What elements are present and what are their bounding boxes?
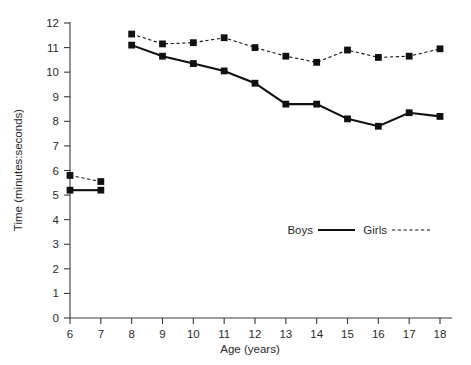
data-point-girls (313, 59, 320, 66)
data-point-boys (282, 101, 289, 108)
x-tick-label: 10 (187, 328, 200, 340)
data-point-boys (313, 101, 320, 108)
data-point-girls (252, 44, 259, 51)
x-axis-title: Age (years) (220, 343, 280, 355)
x-tick-label: 7 (98, 328, 104, 340)
x-tick-label: 6 (67, 328, 73, 340)
data-point-girls (190, 39, 197, 46)
data-point-girls (128, 31, 135, 38)
chart-legend: BoysGirls (287, 224, 430, 236)
data-point-girls (159, 40, 166, 47)
data-point-boys (437, 113, 444, 120)
y-axis-title: Time (minutes:seconds) (12, 109, 24, 231)
x-tick-label: 11 (218, 328, 230, 340)
x-tick-label: 16 (372, 328, 385, 340)
data-point-boys (375, 123, 382, 130)
y-axis: 0123456789101112 (46, 17, 70, 324)
data-point-girls (375, 54, 382, 61)
data-series-group (67, 31, 444, 194)
y-tick-label: 4 (53, 214, 60, 226)
x-tick-label: 15 (341, 328, 354, 340)
data-point-boys (67, 187, 74, 194)
data-point-boys (128, 42, 135, 49)
data-point-girls (437, 45, 444, 52)
series-line-girls (70, 175, 101, 181)
y-tick-label: 3 (53, 238, 59, 250)
y-tick-label: 2 (53, 263, 59, 275)
x-tick-label: 8 (128, 328, 134, 340)
data-point-girls (221, 34, 228, 41)
x-tick-label: 18 (434, 328, 447, 340)
y-tick-label: 7 (53, 140, 59, 152)
y-tick-label: 5 (53, 189, 59, 201)
y-tick-label: 0 (53, 312, 59, 324)
y-tick-label: 12 (46, 17, 59, 29)
y-tick-label: 1 (53, 287, 59, 299)
data-point-girls (67, 172, 74, 179)
data-point-boys (406, 109, 413, 116)
data-point-girls (344, 47, 351, 54)
x-tick-label: 13 (279, 328, 292, 340)
y-tick-label: 9 (53, 91, 59, 103)
data-point-girls (97, 178, 104, 185)
data-point-boys (252, 80, 259, 87)
x-tick-label: 14 (310, 328, 323, 340)
data-point-girls (282, 53, 289, 60)
y-tick-label: 10 (46, 66, 59, 78)
data-point-boys (221, 68, 228, 75)
data-point-boys (344, 115, 351, 122)
data-point-boys (159, 53, 166, 60)
x-axis: 6789101112131415161718 (67, 318, 452, 340)
y-tick-label: 11 (47, 42, 59, 54)
x-tick-label: 9 (159, 328, 165, 340)
x-tick-label: 17 (403, 328, 416, 340)
chart-canvas: 0123456789101112 6789101112131415161718 … (0, 0, 471, 365)
data-point-boys (97, 187, 104, 194)
data-point-boys (190, 60, 197, 67)
x-tick-label: 12 (249, 328, 262, 340)
y-tick-label: 6 (53, 165, 59, 177)
legend-label-boys: Boys (287, 224, 313, 236)
data-point-girls (406, 53, 413, 60)
line-chart: 0123456789101112 6789101112131415161718 … (0, 0, 471, 365)
y-tick-label: 8 (53, 115, 59, 127)
legend-label-girls: Girls (363, 224, 387, 236)
